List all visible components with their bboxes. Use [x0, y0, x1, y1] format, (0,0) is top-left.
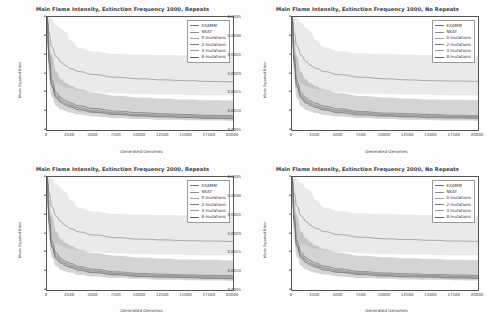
plot-area: EXAMMNEAT0 mutations2 mutations4 mutatio… — [291, 176, 479, 291]
chart-title: Main Flame Intensity, Extinction Frequen… — [245, 166, 490, 172]
legend-label: EXAMM — [446, 24, 461, 28]
x-tick-label: 10000 — [378, 132, 390, 137]
legend-line-swatch — [435, 57, 444, 58]
legend-line-swatch — [435, 32, 444, 33]
y-tick-label: 0.0030 — [227, 32, 241, 37]
legend-line-swatch — [190, 204, 199, 205]
legend-item[interactable]: NEAT — [435, 189, 471, 194]
x-tick-label: 17500 — [203, 292, 215, 297]
legend-line-swatch — [435, 204, 444, 205]
y-tick-label: 0.0025 — [227, 211, 241, 216]
legend-item[interactable]: 8 mutations — [190, 215, 226, 220]
chart-panel-bottom-right: Main Flame Intensity, Extinction Frequen… — [245, 160, 490, 319]
legend-item[interactable]: 0 mutations — [435, 196, 471, 201]
legend-item[interactable]: 8 mutations — [190, 55, 226, 60]
legend-item[interactable]: 4 mutations — [190, 48, 226, 53]
x-tick-label: 20000 — [471, 292, 483, 297]
x-tick-label: 12500 — [156, 132, 168, 137]
legend-item[interactable]: 2 mutations — [190, 202, 226, 207]
chart-panel-bottom-left: Main Flame Intensity, Extinction Frequen… — [0, 160, 245, 319]
legend-item[interactable]: 2 mutations — [190, 42, 226, 47]
y-tick-label: 0.0015 — [227, 89, 241, 94]
y-tick-label: 0.0015 — [227, 249, 241, 254]
x-tick-label: 2500 — [64, 132, 74, 137]
x-tick-label: 2500 — [309, 292, 319, 297]
legend-item[interactable]: EXAMM — [190, 183, 226, 188]
legend-item[interactable]: 8 mutations — [435, 215, 471, 220]
x-tick-label: 17500 — [203, 132, 215, 137]
legend-item[interactable]: 4 mutations — [190, 208, 226, 213]
legend-line-swatch — [435, 50, 444, 51]
chart-panel-top-right: Main Flame Intensity, Extinction Frequen… — [245, 0, 490, 160]
legend-label: 2 mutations — [446, 43, 471, 47]
legend-item[interactable]: 0 mutations — [435, 36, 471, 41]
legend-line-swatch — [190, 38, 199, 39]
y-tick-label: 0.0025 — [227, 51, 241, 56]
legend-label: NEAT — [446, 30, 457, 34]
y-tick-label: 0.0035 — [227, 174, 241, 179]
legend-item[interactable]: NEAT — [190, 189, 226, 194]
legend-item[interactable]: EXAMM — [435, 183, 471, 188]
legend-line-swatch — [190, 32, 199, 33]
x-tick-label: 15000 — [179, 292, 191, 297]
legend-label: 0 mutations — [201, 36, 226, 40]
plot-area: EXAMMNEAT0 mutations2 mutations4 mutatio… — [46, 16, 234, 131]
legend-item[interactable]: NEAT — [435, 29, 471, 34]
legend-line-swatch — [435, 25, 444, 26]
legend-label: EXAMM — [446, 184, 461, 188]
legend-line-swatch — [435, 44, 444, 45]
x-axis-label: Generated Genomes — [291, 149, 482, 154]
x-tick-label: 7500 — [356, 292, 366, 297]
x-tick-label: 20000 — [471, 132, 483, 137]
legend-label: 2 mutations — [201, 203, 226, 207]
x-tick-label: 2500 — [309, 132, 319, 137]
legend-line-swatch — [435, 192, 444, 193]
legend-line-swatch — [435, 217, 444, 218]
legend-item[interactable]: NEAT — [190, 29, 226, 34]
x-tick-label: 17500 — [448, 132, 460, 137]
y-tick-label: 0.0010 — [227, 108, 241, 113]
x-tick-label: 15000 — [424, 292, 436, 297]
legend-line-swatch — [190, 57, 199, 58]
legend-label: 8 mutations — [201, 55, 226, 59]
legend-item[interactable]: 0 mutations — [190, 36, 226, 41]
legend-item[interactable]: 2 mutations — [435, 202, 471, 207]
plot-area: EXAMMNEAT0 mutations2 mutations4 mutatio… — [46, 176, 234, 291]
legend-label: NEAT — [201, 190, 212, 194]
x-tick-label: 12500 — [156, 292, 168, 297]
x-tick-label: 5000 — [333, 132, 343, 137]
x-axis-label: Generated Genomes — [291, 308, 482, 313]
legend-label: 8 mutations — [446, 55, 471, 59]
x-tick-label: 5000 — [88, 292, 98, 297]
y-axis-label: Mean Squared Error — [263, 62, 267, 98]
x-tick-label: 2500 — [64, 292, 74, 297]
y-tick-label: 0.0030 — [227, 192, 241, 197]
chart-legend: EXAMMNEAT0 mutations2 mutations4 mutatio… — [432, 20, 475, 63]
legend-line-swatch — [190, 50, 199, 51]
x-tick-label: 20000 — [226, 132, 238, 137]
legend-item[interactable]: 8 mutations — [435, 55, 471, 60]
legend-line-swatch — [190, 198, 199, 199]
legend-item[interactable]: 4 mutations — [435, 48, 471, 53]
legend-item[interactable]: 2 mutations — [435, 42, 471, 47]
chart-title: Main Flame Intensity, Extinction Frequen… — [245, 6, 490, 12]
chart-panel-top-left: Main Flame Intensity, Extinction Frequen… — [0, 0, 245, 160]
plot-area: EXAMMNEAT0 mutations2 mutations4 mutatio… — [291, 16, 479, 131]
legend-item[interactable]: 4 mutations — [435, 208, 471, 213]
legend-line-swatch — [190, 25, 199, 26]
legend-item[interactable]: 0 mutations — [190, 196, 226, 201]
x-tick-label: 0 — [290, 132, 292, 137]
legend-item[interactable]: EXAMM — [190, 23, 226, 28]
x-axis-label: Generated Genomes — [46, 308, 237, 313]
legend-label: 0 mutations — [201, 196, 226, 200]
legend-label: NEAT — [446, 190, 457, 194]
legend-line-swatch — [435, 210, 444, 211]
legend-line-swatch — [190, 210, 199, 211]
legend-line-swatch — [435, 198, 444, 199]
legend-label: 2 mutations — [201, 43, 226, 47]
x-tick-label: 10000 — [133, 132, 145, 137]
y-axis-label: Mean Squared Error — [18, 62, 22, 98]
y-tick-label: 0.0005 — [227, 287, 241, 292]
legend-item[interactable]: EXAMM — [435, 23, 471, 28]
x-tick-label: 12500 — [401, 132, 413, 137]
